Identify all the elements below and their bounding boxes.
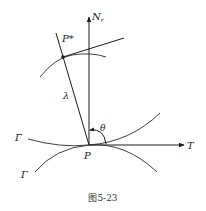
normal-axis-label: Nr xyxy=(91,11,105,23)
point-p-star-label: P* xyxy=(61,33,74,44)
lambda-line xyxy=(56,33,89,145)
point-p-label: P xyxy=(83,150,91,161)
gamma-curve xyxy=(35,113,160,172)
tangent-axis-label: T xyxy=(187,140,195,151)
gamma-bar-label: Γ̄ xyxy=(14,132,23,143)
gamma-bar-curve xyxy=(28,139,157,172)
gamma-label: Γ xyxy=(20,169,29,180)
figure-caption: 图5-23 xyxy=(88,193,117,203)
lambda-label: λ xyxy=(62,90,69,101)
diagram-canvas: Nr T P P* λ θ Γ̄ Γ 图5-23 xyxy=(0,0,206,211)
theta-label: θ xyxy=(100,123,106,133)
offset-curve xyxy=(40,54,106,77)
point-p-star xyxy=(61,55,65,59)
